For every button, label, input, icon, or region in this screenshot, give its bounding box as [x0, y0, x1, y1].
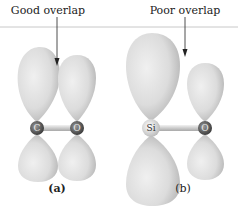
silicon-atom-label: Si	[146, 123, 155, 133]
silicon-lower-lobe	[126, 135, 180, 206]
silicon-upper-lobe	[126, 33, 180, 121]
carbon-lower-lobe-shape	[18, 134, 58, 182]
oxygen-lower-lobe	[58, 134, 96, 181]
si-o-bond	[158, 125, 202, 131]
oxygen-atom-a-label: O	[73, 123, 80, 133]
carbon-atom-label: C	[34, 123, 41, 133]
good-overlap-arrow	[55, 17, 60, 66]
panel-b-orbitals: Si O	[126, 33, 224, 206]
orbital-overlap-figure: C O Si O	[0, 0, 238, 208]
oxygen-upper-lobe	[58, 55, 96, 122]
poor-overlap-arrow	[183, 17, 188, 57]
oxygen-lower-lobe-b	[187, 134, 224, 180]
carbon-upper-lobe	[18, 47, 60, 122]
good-overlap-annotation: Good overlap	[11, 5, 85, 16]
poor-overlap-annotation: Poor overlap	[150, 5, 221, 16]
panel-a-label: (a)	[48, 183, 66, 194]
panel-a-orbitals: C O	[18, 47, 96, 198]
panel-b-label: (b)	[175, 183, 191, 194]
oxygen-atom-b-label: O	[201, 123, 208, 133]
oxygen-upper-lobe-b	[187, 63, 224, 122]
